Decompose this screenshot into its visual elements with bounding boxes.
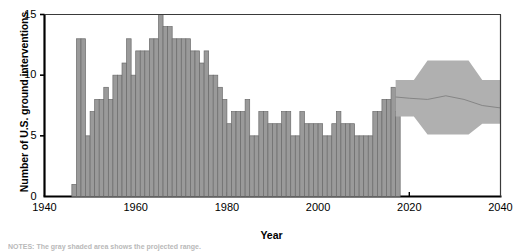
x-tick-label: 1960 [111, 201, 161, 213]
bar [387, 99, 392, 196]
bar [314, 124, 319, 197]
bar [259, 112, 264, 197]
bar [218, 87, 223, 196]
bar [181, 39, 186, 197]
bar [350, 124, 355, 197]
bar [368, 136, 373, 197]
bar [327, 136, 332, 197]
bar [268, 124, 273, 197]
bar [391, 87, 396, 196]
x-tick-label: 1980 [202, 201, 252, 213]
bar [304, 124, 309, 197]
bar [355, 136, 360, 197]
bar [332, 124, 337, 197]
bar [200, 63, 205, 196]
bar [277, 124, 282, 197]
bar [364, 136, 369, 197]
bar [236, 112, 241, 197]
bar [163, 27, 168, 197]
bar [127, 39, 132, 197]
bar [122, 63, 127, 196]
bar [76, 39, 81, 197]
bar [273, 124, 278, 197]
chart-plot-area [0, 0, 521, 252]
bar [396, 112, 401, 197]
x-axis-label: Year [0, 229, 521, 241]
bar [190, 51, 195, 197]
bar [136, 51, 141, 197]
bar [145, 51, 150, 197]
chart-notes: NOTES: The gray shaded area shows the pr… [8, 243, 508, 252]
bar [204, 51, 209, 197]
x-tick-label: 1940 [20, 201, 70, 213]
bar [99, 99, 104, 196]
bar [222, 99, 227, 196]
bar [227, 124, 232, 197]
bar [149, 39, 154, 197]
bar [318, 124, 323, 197]
bar [345, 124, 350, 197]
x-tick-label: 2020 [384, 201, 434, 213]
bar [341, 124, 346, 197]
bar [81, 39, 86, 197]
bar [359, 136, 364, 197]
bar [159, 15, 164, 197]
y-tick-label: 15 [11, 9, 37, 20]
bar [282, 112, 287, 197]
bar [309, 124, 314, 197]
x-tick-label: 2000 [293, 201, 343, 213]
bar [131, 75, 136, 196]
bar [168, 27, 173, 197]
bar [154, 39, 159, 197]
chart-figure: Number of U.S. ground interventions 0510… [0, 0, 521, 252]
bar [95, 99, 100, 196]
bar [336, 112, 341, 197]
bar [86, 136, 91, 197]
bar [323, 136, 328, 197]
bar [104, 87, 109, 196]
x-tick-label: 2040 [476, 201, 521, 213]
bar [377, 112, 382, 197]
bar [295, 136, 300, 197]
y-tick-label: 0 [11, 191, 37, 202]
bar [250, 136, 255, 197]
bar [186, 39, 191, 197]
bar [195, 51, 200, 197]
bar [263, 112, 268, 197]
bar [113, 75, 118, 196]
bar [286, 112, 291, 197]
bar [373, 112, 378, 197]
projection-band [396, 61, 501, 135]
y-tick-label: 10 [11, 69, 37, 80]
bar [140, 51, 145, 197]
bar [90, 112, 95, 197]
bar [72, 184, 77, 196]
x-axis-label-text: Year [260, 229, 282, 241]
y-tick-label: 5 [11, 130, 37, 141]
bar [213, 75, 218, 196]
bar [241, 112, 246, 197]
bar [231, 112, 236, 197]
bar [300, 112, 305, 197]
bar [382, 99, 387, 196]
bar [177, 39, 182, 197]
bar [209, 75, 214, 196]
bar [172, 39, 177, 197]
bar [108, 99, 113, 196]
bar-series [72, 15, 400, 197]
bar [291, 136, 296, 197]
bar [254, 136, 259, 197]
bar [245, 99, 250, 196]
bar [117, 75, 122, 196]
